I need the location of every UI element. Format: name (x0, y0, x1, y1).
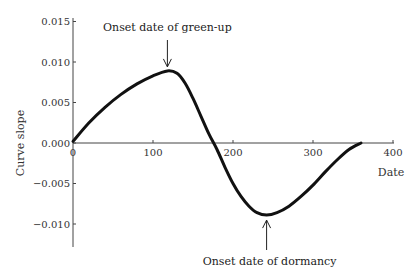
x-tick-label: 200 (223, 147, 242, 158)
chart: 0.0150.0100.0050.000−0.005−0.01001002003… (0, 0, 419, 278)
x-tick-label: 300 (303, 147, 322, 158)
arrow-up-icon (263, 220, 271, 250)
y-tick-label: 0.010 (41, 57, 70, 68)
x-axis-label: Date (378, 166, 404, 179)
axes (73, 18, 394, 247)
x-tick-label: 400 (383, 147, 402, 158)
x-tick-label: 100 (143, 147, 162, 158)
annotation-green-up: Onset date of green-up (103, 21, 232, 34)
y-tick-label: 0.015 (41, 16, 70, 27)
y-tick-label: 0.000 (41, 138, 70, 149)
y-tick-label: 0.005 (41, 97, 70, 108)
x-tick-label: 0 (70, 147, 76, 158)
annotations: Onset date of green-upOnset date of dorm… (103, 21, 337, 268)
y-tick-label: −0.005 (33, 178, 70, 189)
y-tick-label: −0.010 (33, 219, 70, 230)
y-axis-label: Curve slope (14, 110, 27, 176)
annotation-dormancy: Onset date of dormancy (203, 255, 338, 268)
arrow-down-icon (163, 40, 171, 67)
